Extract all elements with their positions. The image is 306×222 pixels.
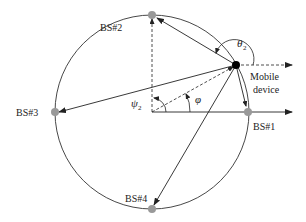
- bs3-node: [51, 108, 59, 116]
- mobile-to-bs1-arrow: [236, 65, 246, 106]
- mobile-label-line2: device: [253, 84, 280, 95]
- phi-symbol: φ: [195, 93, 201, 105]
- theta2-subscript: 2: [243, 44, 247, 52]
- bs2-label: BS#2: [100, 22, 122, 33]
- bs4-label: BS#4: [125, 193, 147, 204]
- mobile-label-line1: Mobile: [250, 71, 279, 82]
- mobile-device-node: [232, 61, 240, 69]
- bs3-label: BS#3: [16, 107, 38, 118]
- psi2-symbol: ψ: [131, 97, 138, 109]
- bs2-node: [148, 11, 156, 19]
- mobile-to-bs2-arrow: [157, 18, 236, 65]
- bs4-node: [148, 205, 156, 213]
- bs1-node: [244, 108, 252, 116]
- mobile-to-bs3-arrow: [59, 65, 236, 112]
- mobile-to-bs4-arrow: [154, 65, 236, 205]
- psi2-subscript: 2: [138, 104, 142, 112]
- phi-arc: [186, 94, 190, 112]
- psi2-arc: [154, 98, 166, 112]
- bs1-label: BS#1: [253, 121, 275, 132]
- localization-diagram: BS#2 BS#3 BS#1 BS#4 Mobile device θ 2 ψ …: [0, 0, 306, 222]
